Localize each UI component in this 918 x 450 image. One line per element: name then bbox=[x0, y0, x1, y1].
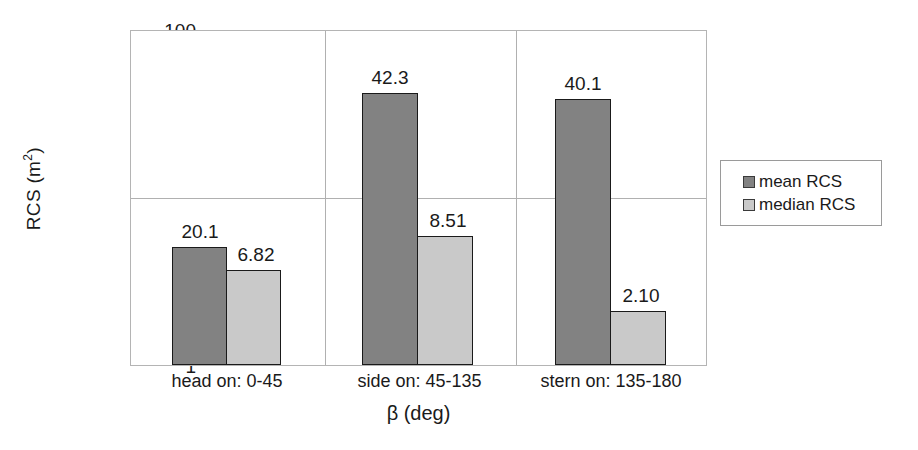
legend-swatch-icon-mean bbox=[743, 176, 755, 188]
bar-value-label-median-side-on: 8.51 bbox=[407, 211, 489, 230]
plot-area: 20.1 6.82 42.3 8.51 40.1 2.10 bbox=[130, 30, 707, 366]
bar-value-label-mean-side-on: 42.3 bbox=[349, 68, 431, 87]
legend: mean RCS median RCS bbox=[720, 160, 882, 226]
bar-value-label-mean-head-on: 20.1 bbox=[159, 222, 241, 241]
bar-median-head-on[interactable] bbox=[226, 270, 281, 365]
bar-value-label-median-stern-on: 2.10 bbox=[600, 286, 682, 305]
legend-item-mean-rcs[interactable]: mean RCS bbox=[721, 170, 881, 193]
category-label-head-on: head on: 0-45 bbox=[130, 371, 324, 391]
category-divider-1 bbox=[325, 31, 326, 365]
bar-median-side-on[interactable] bbox=[417, 236, 473, 365]
category-divider-2 bbox=[516, 31, 517, 365]
y-axis-title: RCS (m2) bbox=[21, 119, 44, 259]
y-axis-title-base: RCS (m bbox=[23, 161, 44, 230]
legend-item-median-rcs[interactable]: median RCS bbox=[721, 193, 881, 216]
bar-value-label-mean-stern-on: 40.1 bbox=[542, 74, 624, 93]
y-axis-title-tail: ) bbox=[23, 147, 44, 154]
bar-value-label-median-head-on: 6.82 bbox=[215, 245, 297, 264]
category-label-side-on: side on: 45-135 bbox=[324, 371, 515, 391]
bar-mean-stern-on[interactable] bbox=[555, 99, 611, 365]
rcs-bar-chart-figure: RCS (m2) 100 10 1 20.1 6.82 42.3 8.51 40… bbox=[0, 0, 918, 450]
legend-label-median: median RCS bbox=[759, 195, 855, 214]
x-axis-title: β (deg) bbox=[130, 402, 707, 425]
gridline-10 bbox=[131, 198, 706, 199]
bar-median-stern-on[interactable] bbox=[610, 311, 666, 365]
y-axis-title-exponent: 2 bbox=[21, 154, 35, 161]
legend-label-mean: mean RCS bbox=[759, 172, 842, 191]
legend-swatch-icon-median bbox=[743, 199, 755, 211]
bar-mean-head-on[interactable] bbox=[172, 247, 227, 365]
category-label-stern-on: stern on: 135-180 bbox=[515, 371, 707, 391]
